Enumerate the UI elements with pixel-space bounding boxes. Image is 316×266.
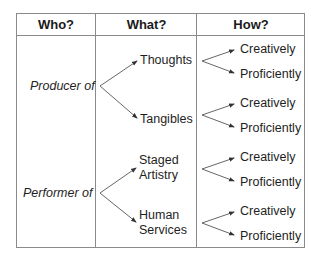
how-staged-creatively: Creatively <box>240 150 296 164</box>
arrow-human-creatively <box>202 212 234 223</box>
what-tangibles: Tangibles <box>140 112 193 126</box>
how-thoughts-creatively: Creatively <box>240 42 296 56</box>
what-staged-line2: Artistry <box>139 168 178 182</box>
what-staged-line1: Staged <box>139 153 179 167</box>
arrow-human-proficiently <box>202 223 234 235</box>
who-producer: Producer of <box>30 79 95 93</box>
header-how: How? <box>197 17 305 32</box>
who-performer: Performer of <box>23 186 92 200</box>
arrow-producer-tangibles <box>100 86 137 118</box>
arrow-staged-proficiently <box>202 169 234 181</box>
arrow-tangibles-creatively <box>202 104 234 115</box>
how-thoughts-proficiently: Proficiently <box>240 67 301 81</box>
how-human-proficiently: Proficiently <box>240 229 301 243</box>
arrow-performer-staged-artistry <box>100 168 136 193</box>
how-human-creatively: Creatively <box>240 204 296 218</box>
header-who: Who? <box>16 17 96 32</box>
header-what: What? <box>96 17 197 32</box>
what-thoughts: Thoughts <box>140 53 192 67</box>
arrow-performer-human-services <box>100 193 136 222</box>
arrow-thoughts-creatively <box>202 50 234 61</box>
how-tangibles-proficiently: Proficiently <box>240 121 301 135</box>
how-staged-proficiently: Proficiently <box>240 175 301 189</box>
what-human-line1: Human <box>139 208 179 222</box>
arrow-staged-creatively <box>202 158 234 169</box>
how-tangibles-creatively: Creatively <box>240 96 296 110</box>
arrow-thoughts-proficiently <box>202 61 234 73</box>
what-human-line2: Services <box>139 223 187 237</box>
arrow-tangibles-proficiently <box>202 115 234 127</box>
arrow-producer-thoughts <box>100 61 137 86</box>
